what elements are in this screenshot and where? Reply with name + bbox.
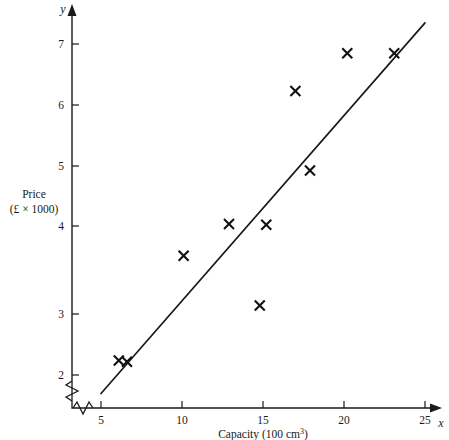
y-tick-labels: 7 6 5 4 3 2 — [58, 38, 64, 381]
y-axis-title-line2: (£ × 1000) — [10, 203, 59, 216]
y-tick-label-5: 5 — [58, 160, 64, 172]
scatter-chart: 7 6 5 4 3 2 5 10 15 20 25 y x Price (£ ×… — [0, 0, 449, 440]
axes-group — [66, 4, 442, 414]
data-point-marker — [342, 48, 352, 58]
y-axis-arrowhead — [68, 4, 77, 16]
y-axis-title-line1: Price — [22, 188, 46, 200]
y-tick-label-7: 7 — [58, 38, 64, 50]
x-axis-variable-label: x — [437, 416, 444, 430]
plot-area: 7 6 5 4 3 2 5 10 15 20 25 y x Price (£ ×… — [0, 0, 449, 440]
y-axis-variable-label: y — [59, 2, 66, 16]
x-tick-label-20: 20 — [338, 414, 350, 426]
axis-corner-connector — [72, 382, 88, 408]
x-tick-label-15: 15 — [257, 414, 269, 426]
data-point-marker — [305, 165, 315, 175]
data-points-group — [114, 48, 399, 366]
data-point-marker — [179, 251, 189, 261]
x-axis-title: Capacity (100 cm3) — [218, 427, 308, 440]
y-axis-title: Price (£ × 1000) — [10, 188, 59, 216]
x-tick-label-10: 10 — [176, 414, 188, 426]
data-point-marker — [255, 300, 265, 310]
x-tick-label-25: 25 — [419, 414, 431, 426]
y-tick-label-4: 4 — [58, 220, 64, 232]
x-axis-title-main: Capacity (100 cm — [218, 428, 300, 440]
data-point-marker — [290, 86, 300, 96]
y-tick-label-2: 2 — [58, 369, 64, 381]
x-tick-label-5: 5 — [98, 414, 104, 426]
y-tick-label-3: 3 — [58, 308, 64, 320]
x-axis-title-tail: ) — [304, 428, 308, 440]
data-point-marker — [224, 219, 234, 229]
x-tick-labels: 5 10 15 20 25 — [98, 414, 431, 426]
data-point-marker — [261, 220, 271, 230]
y-tick-label-6: 6 — [58, 99, 64, 111]
line-of-best-fit — [101, 23, 425, 394]
data-point-marker — [122, 357, 132, 367]
x-axis-arrowhead — [430, 404, 442, 413]
